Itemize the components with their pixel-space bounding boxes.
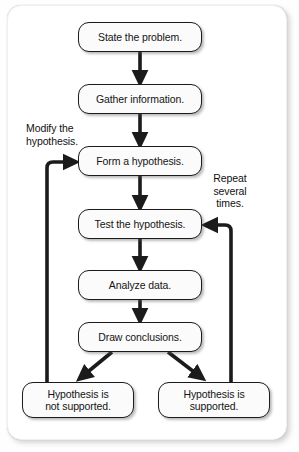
node-hypothesis-supported-label: Hypothesis is supported. [179, 388, 248, 412]
node-state-the-problem-label: State the problem. [94, 31, 186, 43]
node-hypothesis-not-supported-label: Hypothesis is not supported. [41, 388, 115, 412]
node-gather-information[interactable]: Gather information. [78, 84, 202, 114]
annotation-modify-the-hypothesis: Modify the hypothesis. [26, 122, 102, 147]
edge-draw-to-not-supported [84, 352, 112, 375]
edge-loop-modify-hypothesis [47, 162, 70, 382]
node-state-the-problem[interactable]: State the problem. [78, 22, 202, 52]
node-draw-conclusions-label: Draw conclusions. [94, 331, 186, 343]
node-test-the-hypothesis-label: Test the hypothesis. [91, 218, 190, 230]
node-form-a-hypothesis-label: Form a hypothesis. [92, 155, 188, 167]
node-gather-information-label: Gather information. [92, 93, 188, 105]
node-hypothesis-not-supported[interactable]: Hypothesis is not supported. [22, 382, 134, 418]
node-analyze-data[interactable]: Analyze data. [78, 270, 202, 300]
node-hypothesis-supported[interactable]: Hypothesis is supported. [158, 382, 270, 418]
edge-loop-repeat-several-times [211, 225, 231, 382]
annotation-repeat-several-times: Repeat several times. [198, 172, 262, 210]
node-test-the-hypothesis[interactable]: Test the hypothesis. [78, 209, 202, 239]
node-draw-conclusions[interactable]: Draw conclusions. [78, 322, 202, 352]
edge-draw-to-supported [168, 352, 198, 375]
node-analyze-data-label: Analyze data. [105, 279, 175, 291]
diagram-canvas: State the problem. Gather information. F… [0, 0, 299, 452]
node-form-a-hypothesis[interactable]: Form a hypothesis. [78, 146, 202, 176]
